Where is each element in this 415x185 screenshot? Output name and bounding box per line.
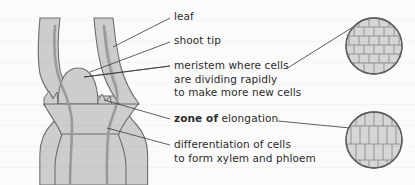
label-meristem-line-2: are dividing rapidly — [174, 73, 301, 87]
label-differentiation-line-2: to form xylem and phloem — [174, 152, 316, 166]
apical-meristem-dome — [58, 68, 98, 104]
label-meristem-line-3: to make more new cells — [174, 86, 301, 100]
label-meristem: meristem where cells are dividing rapidl… — [174, 59, 301, 100]
shoot-tip-diagram: leaf shoot tip meristem where cells are … — [0, 0, 415, 185]
lower-stem — [55, 134, 126, 185]
label-shoot-tip-text: shoot tip — [174, 34, 221, 46]
leader-leaf — [113, 18, 170, 47]
label-elongation-rest: elongation — [222, 112, 279, 124]
meristem-cells-inset — [340, 18, 408, 74]
connector-elongation-inset — [278, 121, 350, 128]
label-leaf: leaf — [174, 10, 194, 24]
label-meristem-line-1: meristem where cells — [174, 59, 301, 73]
label-shoot-tip: shoot tip — [174, 34, 221, 48]
label-leaf-text: leaf — [174, 10, 194, 22]
label-differentiation-line-1: differentiation of cells — [174, 138, 316, 152]
leader-meristem-secondary — [84, 66, 170, 77]
label-differentiation: differentiation of cells to form xylem a… — [174, 138, 316, 165]
label-elongation-bold: zone of — [174, 112, 218, 124]
plant-shoot-tip-drawing — [38, 18, 148, 185]
label-zone-of-elongation: zone of elongation — [174, 112, 278, 126]
elongated-cells-inset — [340, 110, 408, 172]
